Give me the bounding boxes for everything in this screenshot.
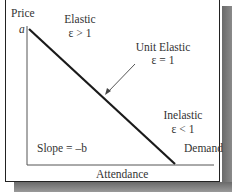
demand-label: Demand [184, 143, 223, 155]
demand-diagram [0, 0, 232, 192]
intercept-label: a [19, 24, 25, 36]
slope-label: Slope = –b [37, 143, 87, 155]
inelastic-title: Inelastic [158, 110, 208, 122]
elastic-title: Elastic [60, 14, 100, 26]
unit-elastic-condition: ε = 1 [130, 55, 196, 67]
unit-elastic-title: Unit Elastic [130, 42, 196, 54]
y-axis-label: Price [11, 8, 35, 20]
inelastic-condition: ε < 1 [158, 124, 208, 136]
x-axis-label: Attendance [96, 169, 148, 181]
unit-elastic-pointer [107, 64, 135, 93]
elastic-condition: ε > 1 [60, 28, 100, 40]
arrow-head-icon [105, 88, 111, 95]
